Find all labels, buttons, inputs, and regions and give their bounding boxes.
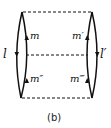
- arrow-l-down-icon: [15, 52, 20, 57]
- label-m-triple: m‴: [70, 74, 85, 84]
- label-m-double: m″: [30, 74, 43, 84]
- figure-caption: (b): [47, 113, 61, 123]
- left-loop-inner: [21, 12, 27, 98]
- label-m-prime: m′: [72, 31, 84, 41]
- right-loop-inner: [87, 12, 92, 98]
- label-l-prime: l′: [100, 48, 107, 60]
- label-m: m: [30, 31, 39, 41]
- arrow-l-prime-down-icon: [95, 52, 100, 57]
- cylinder-diagram: [0, 0, 111, 128]
- arrow-m-prime-up-icon: [85, 35, 90, 40]
- label-l: l: [3, 48, 7, 60]
- right-loop-outer: [92, 12, 97, 98]
